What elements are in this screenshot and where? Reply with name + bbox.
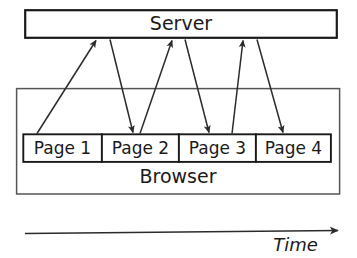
time-axis-label: Time — [258, 236, 333, 254]
time-axis-arrow — [25, 231, 338, 234]
diagram-canvas: Server Browser Page 1 Page 2 Page 3 Page… — [0, 0, 357, 258]
page-label-3: Page 3 — [179, 140, 256, 157]
diagram-vector-layer — [0, 0, 357, 258]
page-label-4: Page 4 — [256, 140, 331, 157]
server-label: Server — [25, 14, 337, 33]
page-label-1: Page 1 — [23, 140, 102, 157]
browser-label: Browser — [16, 167, 340, 186]
page-label-2: Page 2 — [102, 140, 179, 157]
